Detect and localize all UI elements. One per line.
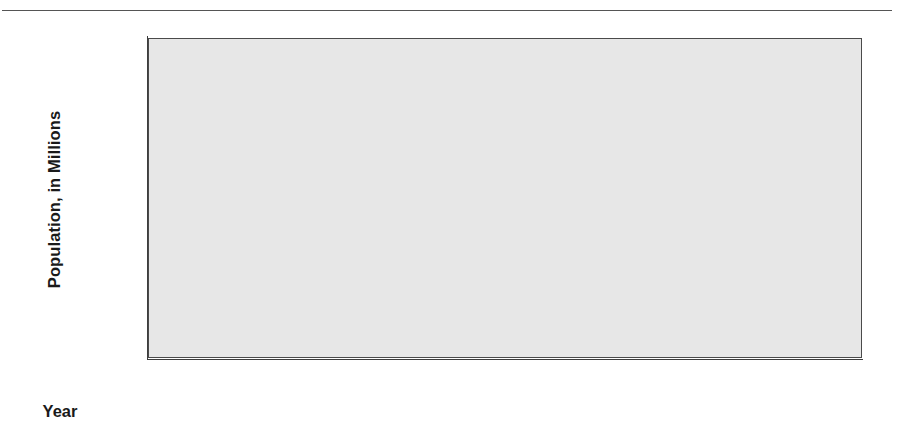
x-axis-spine <box>147 359 863 360</box>
y-axis-spine <box>147 36 148 360</box>
bar-chart-figure: Population, in Millions Year <box>0 0 907 446</box>
y-axis-title: Population, in Millions <box>45 50 64 350</box>
bars-container <box>149 39 861 357</box>
x-axis-title: Year <box>0 402 120 421</box>
plot-area <box>148 38 862 358</box>
